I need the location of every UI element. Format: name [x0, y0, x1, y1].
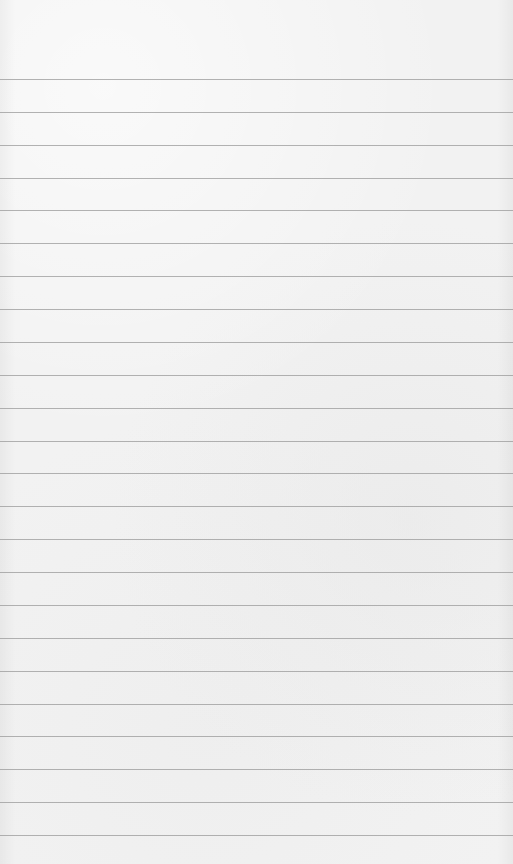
- ruled-line: [0, 210, 513, 211]
- ruled-line: [0, 835, 513, 836]
- ruled-line: [0, 769, 513, 770]
- ruled-line: [0, 704, 513, 705]
- ruled-line: [0, 506, 513, 507]
- ruled-line: [0, 539, 513, 540]
- lined-paper-background: [0, 0, 513, 864]
- ruled-line: [0, 276, 513, 277]
- ruled-line: [0, 79, 513, 80]
- ruled-line: [0, 178, 513, 179]
- ruled-line: [0, 342, 513, 343]
- ruled-line: [0, 473, 513, 474]
- ruled-line: [0, 309, 513, 310]
- ruled-line: [0, 375, 513, 376]
- ruled-line: [0, 736, 513, 737]
- ruled-line: [0, 671, 513, 672]
- ruled-line: [0, 605, 513, 606]
- ruled-line: [0, 243, 513, 244]
- ruled-line: [0, 802, 513, 803]
- ruled-line: [0, 112, 513, 113]
- ruled-line: [0, 408, 513, 409]
- ruled-line: [0, 441, 513, 442]
- ruled-line: [0, 145, 513, 146]
- ruled-line: [0, 638, 513, 639]
- ruled-line: [0, 572, 513, 573]
